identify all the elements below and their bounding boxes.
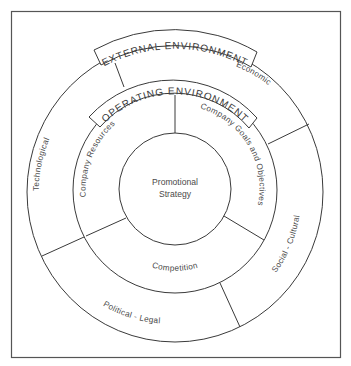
center-label-line2: Strategy (159, 189, 192, 199)
diagram-figure: EXTERNAL ENVIRONMENT OPERATING ENVIRONME… (0, 0, 351, 366)
center-label-line1: Promotional (152, 177, 198, 187)
